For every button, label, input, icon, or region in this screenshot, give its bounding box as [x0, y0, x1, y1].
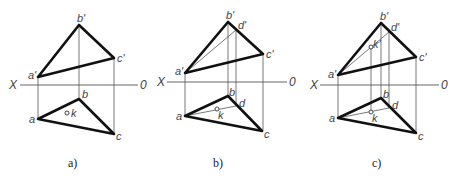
- label-a-prime: a': [328, 68, 337, 80]
- label-b: b: [229, 86, 235, 98]
- origin-label: 0: [289, 75, 296, 89]
- label-c: c: [116, 130, 122, 142]
- label-d-prime: d': [238, 19, 247, 31]
- label-d: d: [392, 99, 399, 111]
- origin-label: 0: [140, 78, 147, 92]
- frontal-projection-triangle: [38, 25, 114, 77]
- panel-b: X 0 a' b' d' c' a b d c k b): [156, 9, 296, 170]
- caption-c: c): [372, 156, 381, 170]
- label-c: c: [418, 130, 424, 142]
- label-a: a: [329, 112, 335, 124]
- panel-a: X 0 a' b' c' a b c k a): [8, 12, 147, 170]
- label-a-prime: a': [175, 65, 184, 77]
- label-b-prime: b': [226, 9, 235, 21]
- x-axis-label: X: [8, 78, 18, 92]
- origin-label: 0: [441, 78, 448, 92]
- label-a: a: [176, 110, 182, 122]
- label-k: k: [71, 107, 77, 119]
- label-b-prime: b': [77, 12, 86, 24]
- label-d-prime: d': [391, 21, 400, 33]
- auxiliary-line-a-d: [338, 108, 389, 118]
- label-d: d: [239, 97, 246, 109]
- caption-a: a): [68, 156, 77, 170]
- x-axis-label: X: [156, 75, 166, 89]
- label-a: a: [29, 113, 35, 125]
- label-b: b: [383, 88, 389, 100]
- label-c-prime: c': [419, 51, 428, 63]
- label-b-prime: b': [380, 10, 389, 22]
- panel-c: X 0 a' b' d' k' c' a b d c k c): [309, 10, 448, 170]
- label-b: b: [82, 88, 88, 100]
- label-a-prime: a': [28, 69, 37, 81]
- label-c: c: [264, 128, 270, 140]
- x-axis-label: X: [309, 78, 319, 92]
- label-k-prime: k': [373, 38, 382, 50]
- projection-figure: X 0 a' b' c' a b c k a) X 0 a' b' d' c' …: [0, 0, 457, 178]
- frontal-projection-triangle: [185, 22, 263, 73]
- label-c-prime: c': [117, 52, 126, 64]
- label-c-prime: c': [266, 48, 275, 60]
- label-k: k: [218, 109, 224, 121]
- caption-b: b): [213, 156, 223, 170]
- auxiliary-line-a-d: [185, 106, 236, 116]
- point-k: [65, 111, 69, 115]
- label-k: k: [372, 112, 378, 124]
